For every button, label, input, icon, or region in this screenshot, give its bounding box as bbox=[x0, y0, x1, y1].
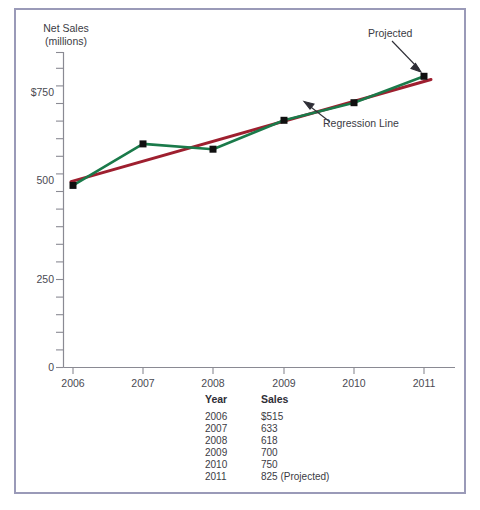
x-tick-label-2010: 2010 bbox=[330, 377, 378, 389]
x-tick-label-2007: 2007 bbox=[119, 377, 167, 389]
y-tick-label-250: 250 bbox=[12, 273, 54, 285]
table-cell-sales: 633 bbox=[257, 422, 329, 434]
y-tick-label-750: $750 bbox=[12, 86, 54, 98]
table-header-year: Year bbox=[205, 393, 257, 410]
table-row: 2008 618 bbox=[205, 434, 329, 446]
y-axis-title: Net Sales (millions) bbox=[26, 22, 106, 48]
data-point-2011 bbox=[421, 73, 428, 80]
y-axis-title-line2: (millions) bbox=[26, 35, 106, 48]
table-cell-sales: 750 bbox=[257, 458, 329, 470]
x-tick-label-2006: 2006 bbox=[49, 377, 97, 389]
data-point-2008 bbox=[210, 146, 217, 153]
table-row: 2006 $515 bbox=[205, 410, 329, 422]
sales-data-table: Year Sales 2006 $515 2007 633 2008 618 2… bbox=[205, 393, 329, 482]
y-axis-title-line1: Net Sales bbox=[26, 22, 106, 35]
table-cell-sales: 825 (Projected) bbox=[257, 470, 329, 482]
table-cell-year: 2008 bbox=[205, 434, 257, 446]
x-tick-label-2008: 2008 bbox=[189, 377, 237, 389]
projected-annotation-label: Projected bbox=[368, 27, 412, 39]
table-cell-year: 2010 bbox=[205, 458, 257, 470]
table-cell-year: 2006 bbox=[205, 410, 257, 422]
data-point-2006 bbox=[70, 182, 77, 189]
y-tick-label-0: 0 bbox=[12, 361, 54, 373]
table-row: 2010 750 bbox=[205, 458, 329, 470]
table-header-sales: Sales bbox=[257, 393, 329, 410]
data-point-2007 bbox=[140, 140, 147, 147]
table-cell-sales: 700 bbox=[257, 446, 329, 458]
x-axis-ticks bbox=[73, 368, 424, 375]
table-header-row: Year Sales bbox=[205, 393, 329, 410]
table-row: 2011 825 (Projected) bbox=[205, 470, 329, 482]
x-tick-label-2009: 2009 bbox=[260, 377, 308, 389]
table-row: 2007 633 bbox=[205, 422, 329, 434]
data-point-2010 bbox=[351, 99, 358, 106]
table-cell-sales: 618 bbox=[257, 434, 329, 446]
data-point-2009 bbox=[281, 117, 288, 124]
y-axis-ticks bbox=[56, 53, 64, 368]
table-cell-sales: $515 bbox=[257, 410, 329, 422]
table-cell-year: 2011 bbox=[205, 470, 257, 482]
y-tick-label-500: 500 bbox=[12, 174, 54, 186]
table-cell-year: 2009 bbox=[205, 446, 257, 458]
regression-line-annotation-label: Regression Line bbox=[323, 117, 399, 129]
projected-arrow-head bbox=[411, 64, 421, 73]
x-tick-label-2011: 2011 bbox=[400, 377, 448, 389]
table-cell-year: 2007 bbox=[205, 422, 257, 434]
table-row: 2009 700 bbox=[205, 446, 329, 458]
